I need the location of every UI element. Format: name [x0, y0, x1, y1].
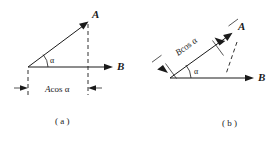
panel-b-dimension-left-tail: [152, 55, 162, 62]
panel-a-vector-a-label: A: [91, 8, 99, 20]
panel-a-vector-b-arrowhead: [104, 64, 113, 71]
panel-b-projection-dashed-line: [226, 42, 237, 74]
panel-a-dimension-right-arrowhead: [88, 85, 96, 91]
panel-b: A B α Bcos α ( b ): [152, 19, 265, 128]
panel-b-vector-b-label: B: [257, 71, 265, 83]
figure-container: A B α Acos α ( a ): [0, 0, 276, 142]
panel-a-projection-label-rest: cos α: [51, 84, 70, 94]
panel-a-dimension-left-arrowhead: [20, 85, 28, 91]
panel-b-angle-label: α: [194, 67, 199, 76]
vector-projection-figure: A B α Acos α ( a ): [0, 0, 276, 142]
panel-a: A B α Acos α ( a ): [14, 8, 124, 126]
panel-b-dimension-left-arrowhead: [157, 65, 168, 73]
panel-b-vector-a-label: A: [237, 20, 245, 32]
panel-b-vector-a-arrowhead: [223, 33, 232, 41]
panel-b-caption: ( b ): [222, 118, 237, 128]
panel-a-caption: ( a ): [55, 116, 70, 126]
panel-b-projection-label-rest: cos α: [178, 35, 199, 54]
panel-b-dimension-right-tail: [229, 19, 239, 26]
panel-b-projection-label: Bcos α: [173, 35, 199, 58]
panel-a-projection-label: Acos α: [44, 84, 70, 94]
panel-a-vector-a-shaft: [28, 24, 85, 67]
panel-b-angle-arc: [186, 65, 191, 78]
panel-a-angle-arc: [43, 55, 48, 67]
panel-b-vector-b-arrowhead: [245, 75, 254, 82]
panel-a-vector-b-label: B: [116, 60, 124, 72]
panel-a-angle-label: α: [50, 56, 55, 65]
panel-b-origin-tick: [166, 64, 177, 79]
